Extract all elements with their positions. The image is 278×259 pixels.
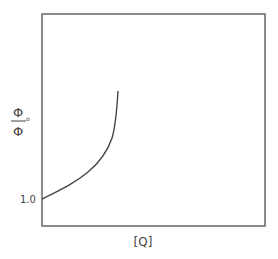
plot-frame bbox=[42, 14, 265, 226]
chart: 1.0 [Q] Φ o Φ bbox=[0, 0, 278, 259]
svg-text:Φ: Φ bbox=[13, 105, 23, 120]
y-axis-label: Φ o Φ bbox=[11, 105, 30, 139]
x-axis-label: [Q] bbox=[134, 235, 153, 249]
svg-text:Φ: Φ bbox=[13, 124, 23, 139]
data-curve bbox=[42, 91, 118, 199]
svg-text:o: o bbox=[26, 115, 30, 122]
y-tick-label: 1.0 bbox=[20, 194, 36, 205]
